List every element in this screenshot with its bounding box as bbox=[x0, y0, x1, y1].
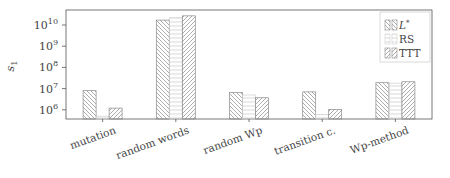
plot-area bbox=[66, 10, 432, 119]
y-axis: 1061071081091010 bbox=[34, 17, 66, 117]
bar-rs bbox=[243, 95, 256, 119]
x-tick-label: random Wp bbox=[201, 124, 264, 157]
bar-group bbox=[303, 92, 342, 119]
bar-ttt bbox=[329, 109, 342, 119]
bar-group bbox=[156, 16, 195, 119]
bar-chart: 1061071081091010 mutationrandom wordsran… bbox=[0, 0, 450, 178]
x-tick-label: Wp-method bbox=[348, 124, 410, 156]
bar-rs bbox=[169, 18, 182, 119]
bar-ttt bbox=[182, 16, 195, 119]
bar-lstar bbox=[156, 20, 169, 119]
bar-group bbox=[230, 93, 269, 119]
x-tick-label: mutation bbox=[68, 124, 117, 152]
bar-lstar bbox=[376, 83, 389, 119]
bar-ttt bbox=[256, 98, 269, 119]
bar-rs bbox=[96, 116, 109, 119]
bar-lstar bbox=[230, 93, 243, 119]
legend-swatch bbox=[385, 20, 390, 30]
bar-rs bbox=[316, 115, 329, 119]
legend-swatch bbox=[385, 48, 390, 58]
x-tick-label: transition c. bbox=[272, 124, 336, 157]
legend-label: RS bbox=[399, 33, 414, 45]
legend-label: TTT bbox=[399, 47, 420, 59]
legend: L*RSTTT bbox=[380, 12, 430, 62]
bar-ttt bbox=[109, 108, 122, 119]
legend-swatch bbox=[392, 20, 397, 30]
y-tick-label: 106 bbox=[39, 102, 58, 117]
bar-lstar bbox=[303, 92, 316, 119]
bar-group bbox=[83, 91, 122, 119]
y-axis-label: s1 bbox=[4, 61, 19, 72]
y-tick-label: 1010 bbox=[34, 17, 58, 32]
x-axis: mutationrandom wordsrandom Wptransition … bbox=[68, 119, 410, 161]
x-tick-label: random words bbox=[114, 124, 190, 162]
legend-swatch bbox=[392, 48, 397, 58]
bar-rs bbox=[389, 83, 402, 119]
legend-swatch bbox=[392, 34, 397, 44]
bar-ttt bbox=[402, 82, 415, 119]
bar-group bbox=[376, 82, 415, 119]
y-tick-label: 109 bbox=[39, 38, 58, 53]
y-tick-label: 108 bbox=[39, 59, 58, 74]
y-tick-label: 107 bbox=[39, 81, 58, 96]
legend-swatch bbox=[385, 34, 390, 44]
bar-lstar bbox=[83, 91, 96, 119]
